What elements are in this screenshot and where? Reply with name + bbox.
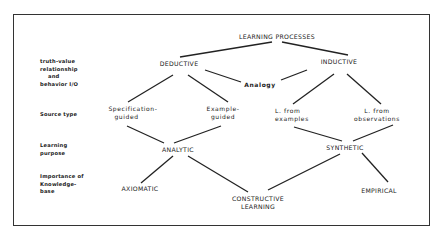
edge-analytic-constructive (188, 156, 248, 192)
edge-synthetic-empirical (362, 153, 388, 182)
node-line: L. from (354, 107, 400, 115)
node-synthetic: SYNTHETIC (326, 144, 363, 152)
row-label-knowledge-base: Importance of Knowledge- base (40, 173, 84, 196)
node-analytic: ANALYTIC (162, 146, 194, 154)
node-line: CONSTRUCTIVE (232, 195, 284, 203)
node-line: Specification- (108, 105, 157, 113)
row-label-line: relationship (40, 66, 78, 74)
row-label-line: Knowledge- (40, 181, 84, 189)
row-label-line: base (40, 188, 84, 196)
node-line: guided (207, 113, 240, 121)
edge-example-analytic (174, 126, 221, 143)
edge-deductive-specification (128, 75, 173, 102)
node-line: examples (275, 115, 309, 123)
edge-deductive-example (188, 75, 228, 102)
node-l-from-observations: L. from observations (354, 107, 400, 123)
edge-root-deductive (180, 42, 272, 57)
row-label-line: Importance of (40, 173, 84, 181)
row-label-line: Learning (40, 142, 67, 150)
edge-synthetic-constructive (268, 154, 340, 190)
edge-root-inductive (282, 42, 348, 55)
row-label-line: purpose (40, 150, 67, 158)
edge-deductive-analogy (205, 70, 241, 82)
node-line: guided (108, 113, 157, 121)
row-label-truth-value: truth-value relationship and behavior I/… (40, 58, 78, 88)
row-label-learning-purpose: Learning purpose (40, 142, 67, 157)
node-example-guided: Example- guided (207, 105, 240, 121)
row-label-line: behavior I/O (40, 81, 78, 89)
row-label-line: truth-value (40, 58, 78, 66)
edge-lobservations-synthetic (353, 125, 393, 141)
edge-analytic-axiomatic (141, 156, 173, 183)
node-line: L. from (275, 107, 309, 115)
node-analogy: Analogy (244, 81, 276, 89)
node-learning-processes: LEARNING PROCESSES (239, 33, 315, 41)
row-label-source-type: Source type (40, 111, 77, 119)
edge-specification-analytic (127, 126, 164, 143)
node-specification-guided: Specification- guided (108, 105, 157, 121)
edge-inductive-lexamples (293, 74, 334, 104)
node-l-from-examples: L. from examples (275, 107, 309, 123)
node-line: observations (354, 115, 400, 123)
edge-inductive-lobservations (347, 74, 381, 104)
row-label-line: Source type (40, 111, 77, 119)
node-line: LEARNING (232, 203, 284, 211)
node-constructive-learning: CONSTRUCTIVE LEARNING (232, 195, 284, 211)
node-deductive: DEDUCTIVE (160, 60, 199, 68)
node-axiomatic: AXIOMATIC (122, 185, 159, 193)
node-empirical: EMPIRICAL (361, 187, 397, 195)
edge-inductive-analogy (281, 70, 307, 80)
node-inductive: INDUCTIVE (321, 58, 358, 66)
row-label-line: and (40, 73, 78, 81)
node-line: Example- (207, 105, 240, 113)
edge-lexamples-synthetic (294, 127, 342, 141)
